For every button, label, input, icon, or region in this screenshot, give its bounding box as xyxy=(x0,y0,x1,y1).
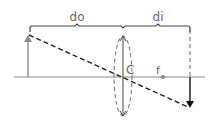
image-arrowhead-icon xyxy=(186,101,194,108)
center-label: C xyxy=(126,63,134,77)
central-ray xyxy=(29,35,188,107)
focal-label: f xyxy=(156,64,161,77)
distance-bracket xyxy=(30,24,190,32)
image-distance-label: di xyxy=(153,10,164,24)
focal-point-dot xyxy=(161,75,165,79)
lens-diagram: do di C f xyxy=(0,0,211,132)
object-distance-label: do xyxy=(70,10,85,24)
